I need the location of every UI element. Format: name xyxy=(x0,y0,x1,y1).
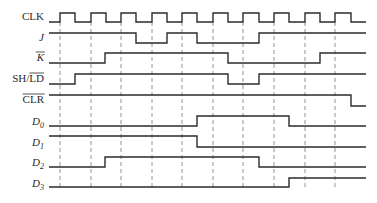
waveform-d1 xyxy=(49,136,366,147)
waveform-d2 xyxy=(49,157,366,167)
waveform-sh-ld-bar xyxy=(49,74,366,84)
waveform-k-bar xyxy=(49,53,366,63)
signal-waveforms xyxy=(49,13,366,187)
signal-label-d2: D2 xyxy=(31,156,44,171)
waveform-clk xyxy=(49,13,366,22)
signal-label-clr-bar: CLR xyxy=(23,93,45,105)
signal-label-d1: D1 xyxy=(31,136,44,151)
signal-label-d3: D3 xyxy=(31,177,44,192)
waveform-clr-bar xyxy=(49,95,366,106)
signal-labels: CLKJKSH/LDCLRD0D1D2D3 xyxy=(12,10,45,192)
timing-diagram: CLKJKSH/LDCLRD0D1D2D3 xyxy=(0,0,377,203)
signal-label-j: J xyxy=(39,31,45,43)
waveform-d3 xyxy=(49,178,366,187)
waveform-d0 xyxy=(49,116,366,126)
signal-label-k-bar: K xyxy=(36,51,45,63)
signal-label-clk: CLK xyxy=(22,10,44,22)
signal-label-sh-ld-bar: SH/LD xyxy=(12,72,44,84)
signal-label-d0: D0 xyxy=(31,115,44,130)
clock-edge-gridlines xyxy=(60,22,335,187)
waveform-j xyxy=(49,33,366,43)
